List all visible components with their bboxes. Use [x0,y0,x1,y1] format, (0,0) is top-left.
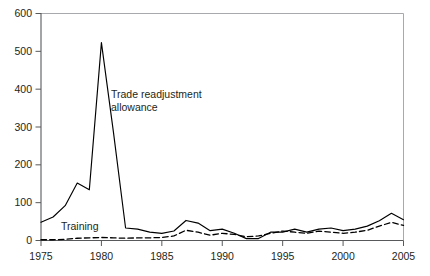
chart-container: 0100200300400500600 19751980198519901995… [0,0,430,276]
y-tick-label: 0 [26,234,32,246]
training-label: Training [61,220,99,232]
line-chart: 0100200300400500600 19751980198519901995… [0,0,430,276]
x-tick-label: 1990 [211,250,235,262]
x-tick-label: 2005 [392,250,416,262]
y-tick-label: 500 [14,45,32,57]
y-tick-label: 200 [14,158,32,170]
y-tick-label: 100 [14,196,32,208]
x-tick-label: 1980 [90,250,114,262]
x-tick-label: 1975 [29,250,53,262]
x-tick-label: 1985 [150,250,174,262]
y-tick-label: 600 [14,7,32,19]
y-tick-label: 400 [14,83,32,95]
x-tick-label: 2000 [331,250,355,262]
y-tick-label: 300 [14,121,32,133]
x-tick-label: 1995 [271,250,295,262]
